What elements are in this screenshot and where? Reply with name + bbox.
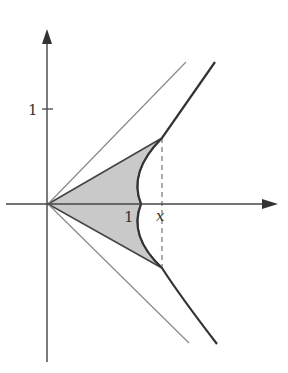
hyperbola-branch [137, 62, 217, 344]
y-tick-label: 1 [28, 101, 38, 119]
x-axis-arrow-icon [262, 199, 278, 209]
x-marker-label: x [156, 207, 165, 225]
hyperbola-diagram: 1 1 x [0, 0, 288, 373]
y-axis-arrow-icon [42, 29, 52, 44]
x-tick-label: 1 [124, 208, 134, 226]
